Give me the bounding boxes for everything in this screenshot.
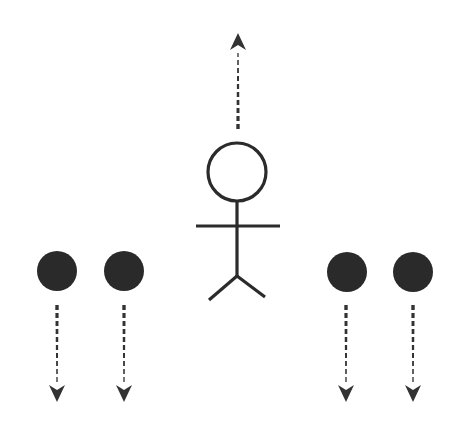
- dot-3: [327, 252, 367, 402]
- filled-dot: [327, 252, 367, 292]
- stick-figure: [196, 33, 280, 300]
- arrow-down-icon: [405, 385, 421, 402]
- figure-left-leg: [209, 276, 237, 300]
- dot-4-down-arrow: [405, 305, 421, 402]
- dot-4: [393, 252, 433, 402]
- dot-2-down-arrow: [116, 305, 132, 402]
- diagram-canvas: Person moving up while four dots move do…: [0, 0, 476, 433]
- arrow-up-icon: [230, 33, 246, 50]
- arrow-down-icon: [338, 385, 354, 402]
- arrow-down-icon: [116, 385, 132, 402]
- dot-group: [37, 251, 433, 402]
- dot-1-down-arrow: [49, 305, 65, 402]
- dot-2: [104, 251, 144, 402]
- figure-up-arrow: [230, 33, 246, 129]
- diagram-svg: [0, 0, 476, 433]
- filled-dot: [37, 251, 77, 291]
- dot-3-down-arrow: [338, 305, 354, 402]
- filled-dot: [393, 252, 433, 292]
- filled-dot: [104, 251, 144, 291]
- figure-head: [208, 143, 266, 201]
- arrow-down-icon: [49, 385, 65, 402]
- figure-right-leg: [237, 276, 265, 297]
- dot-1: [37, 251, 77, 402]
